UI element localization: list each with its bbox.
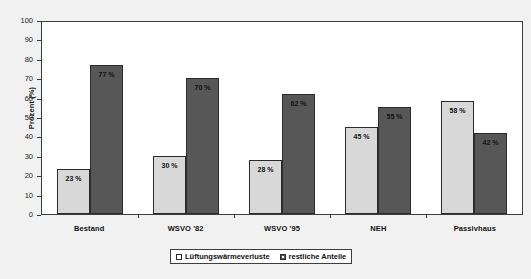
bar-lueftungswaermeverluste: 23 % xyxy=(57,169,90,214)
bar-restliche-anteile: 55 % xyxy=(378,107,411,214)
bars-wrap: 23 %77 % xyxy=(42,22,138,214)
y-tick-label: 10 xyxy=(25,191,33,201)
x-tick-mark xyxy=(330,214,331,218)
bar-chart-figure: Prozent (%) 1009080706050403020100 23 %7… xyxy=(0,0,531,279)
y-tick-label: 0 xyxy=(29,210,33,220)
y-tick-label: 100 xyxy=(20,16,33,26)
x-axis-label: WSVO '95 xyxy=(234,224,330,233)
bars-wrap: 28 %62 % xyxy=(234,22,330,214)
bar-value-label: 70 % xyxy=(187,84,218,91)
y-tick-label: 40 xyxy=(25,132,33,142)
bar-group-wsvo-82: 30 %70 % xyxy=(138,22,234,214)
y-tick-40: 40 xyxy=(0,132,41,142)
x-axis-labels: BestandWSVO '82WSVO '95NEHPassivhaus xyxy=(41,224,523,233)
bar-value-label: 30 % xyxy=(154,162,185,169)
bar-value-label: 45 % xyxy=(346,133,377,140)
y-tick-0: 0 xyxy=(0,210,41,220)
bar-lueftungswaermeverluste: 58 % xyxy=(441,101,474,214)
y-tick-10: 10 xyxy=(0,191,41,201)
bar-value-label: 77 % xyxy=(91,71,122,78)
bar-restliche-anteile: 77 % xyxy=(90,65,123,214)
legend-swatch-light-icon xyxy=(176,254,182,260)
bar-value-label: 58 % xyxy=(442,107,473,114)
bar-restliche-anteile: 70 % xyxy=(186,78,219,214)
bar-value-label: 23 % xyxy=(58,175,89,182)
x-tick-mark xyxy=(426,214,427,218)
y-tick-label: 80 xyxy=(25,55,33,65)
y-tick-mark xyxy=(37,215,41,216)
bar-restliche-anteile: 42 % xyxy=(474,133,507,214)
bar-restliche-anteile: 62 % xyxy=(282,94,315,214)
y-tick-label: 90 xyxy=(25,35,33,45)
bar-value-label: 42 % xyxy=(475,139,506,146)
x-axis-label: Bestand xyxy=(41,224,137,233)
x-tick-mark xyxy=(234,214,235,218)
bars-wrap: 30 %70 % xyxy=(138,22,234,214)
bar-lueftungswaermeverluste: 30 % xyxy=(153,156,186,214)
legend-swatch-dark-icon xyxy=(280,254,286,260)
legend-label-lueftungswaermeverluste: Lüftungswärmeverluste xyxy=(185,252,270,261)
chart-legend: Lüftungswärmeverluste restliche Anteile xyxy=(170,249,352,264)
plot-area: 23 %77 %30 %70 %28 %62 %45 %55 %58 %42 % xyxy=(41,21,523,215)
y-tick-60: 60 xyxy=(0,94,41,104)
y-tick-label: 70 xyxy=(25,74,33,84)
x-axis-label: Passivhaus xyxy=(427,224,523,233)
plot-inner: 23 %77 %30 %70 %28 %62 %45 %55 %58 %42 % xyxy=(42,22,522,214)
bar-groups: 23 %77 %30 %70 %28 %62 %45 %55 %58 %42 % xyxy=(42,22,522,214)
y-tick-70: 70 xyxy=(0,74,41,84)
bar-lueftungswaermeverluste: 28 % xyxy=(249,160,282,214)
bar-value-label: 62 % xyxy=(283,100,314,107)
x-tick-mark xyxy=(138,214,139,218)
y-tick-30: 30 xyxy=(0,152,41,162)
y-tick-20: 20 xyxy=(0,171,41,181)
y-tick-label: 60 xyxy=(25,94,33,104)
y-tick-80: 80 xyxy=(0,55,41,65)
y-tick-90: 90 xyxy=(0,35,41,45)
legend-entry-restliche-anteile: restliche Anteile xyxy=(280,252,347,261)
bar-lueftungswaermeverluste: 45 % xyxy=(345,127,378,214)
bars-wrap: 45 %55 % xyxy=(330,22,426,214)
y-tick-label: 30 xyxy=(25,152,33,162)
legend-label-restliche-anteile: restliche Anteile xyxy=(289,252,347,261)
bars-wrap: 58 %42 % xyxy=(426,22,522,214)
bar-group-wsvo-95: 28 %62 % xyxy=(234,22,330,214)
y-tick-100: 100 xyxy=(0,16,41,26)
x-axis-label: WSVO '82 xyxy=(137,224,233,233)
legend-entry-lueftungswaermeverluste: Lüftungswärmeverluste xyxy=(176,252,270,261)
bar-value-label: 55 % xyxy=(379,113,410,120)
bar-group-passivhaus: 58 %42 % xyxy=(426,22,522,214)
bar-group-neh: 45 %55 % xyxy=(330,22,426,214)
y-tick-50: 50 xyxy=(0,113,41,123)
y-tick-label: 50 xyxy=(25,113,33,123)
y-tick-label: 20 xyxy=(25,171,33,181)
bar-group-bestand: 23 %77 % xyxy=(42,22,138,214)
bar-value-label: 28 % xyxy=(250,166,281,173)
x-axis-label: NEH xyxy=(330,224,426,233)
